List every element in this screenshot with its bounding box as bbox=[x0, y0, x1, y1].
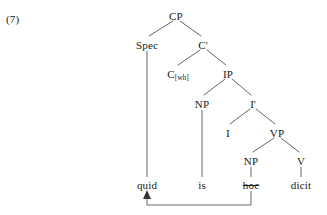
tree-node-ip-label: IP bbox=[223, 68, 233, 80]
tree-node-vp: VP bbox=[270, 128, 284, 139]
tree-node-v-label: V bbox=[297, 155, 305, 167]
branch-ip-ibar bbox=[232, 79, 251, 95]
tree-node-i-label: I bbox=[226, 127, 230, 139]
tree-node-c-wh-subscript: [wh] bbox=[175, 73, 189, 82]
branch-ip-np bbox=[204, 79, 225, 95]
tree-node-np-object: NP bbox=[244, 156, 258, 167]
tree-node-cp-label: CP bbox=[169, 10, 183, 22]
tree-node-i: I bbox=[226, 128, 230, 139]
tree-terminal-hoc-struck: hoc bbox=[243, 180, 259, 191]
movement-arrow bbox=[143, 190, 251, 205]
tree-node-spec: Spec bbox=[136, 40, 158, 51]
branch-ibar-vp bbox=[256, 109, 275, 124]
tree-node-vp-label: VP bbox=[270, 127, 284, 139]
branch-ibar-i bbox=[230, 109, 250, 124]
branch-cp-cbar bbox=[180, 21, 201, 36]
branch-cp-spec bbox=[149, 21, 173, 36]
tree-terminal-dicit: dicit bbox=[291, 180, 311, 191]
movement-arrow-path bbox=[147, 191, 251, 205]
branch-vp-np bbox=[253, 138, 274, 152]
tree-node-ip: IP bbox=[223, 69, 233, 80]
tree-node-np-object-label: NP bbox=[244, 155, 258, 167]
tree-node-v: V bbox=[297, 156, 305, 167]
tree-node-cbar: C' bbox=[198, 40, 207, 51]
branch-cbar-c bbox=[178, 50, 200, 65]
tree-node-ibar-label: I' bbox=[250, 98, 256, 110]
tree-node-spec-label: Spec bbox=[136, 39, 158, 51]
syntax-tree-graphic bbox=[0, 0, 327, 215]
tree-node-np-subject-label: NP bbox=[195, 98, 209, 110]
movement-arrowhead bbox=[143, 190, 151, 199]
tree-terminal-is: is bbox=[198, 180, 206, 191]
branch-cbar-ip bbox=[207, 50, 226, 65]
tree-node-c-wh: C[wh] bbox=[167, 69, 189, 81]
tree-terminal-quid: quid bbox=[137, 180, 157, 191]
branch-vp-v bbox=[281, 138, 299, 152]
tree-node-cbar-label: C' bbox=[198, 39, 207, 51]
figure-container: (7) bbox=[0, 0, 327, 215]
tree-node-ibar: I' bbox=[250, 99, 256, 110]
tree-node-cp: CP bbox=[169, 11, 183, 22]
tree-node-c-wh-label: C bbox=[167, 68, 175, 80]
tree-node-np-subject: NP bbox=[195, 99, 209, 110]
